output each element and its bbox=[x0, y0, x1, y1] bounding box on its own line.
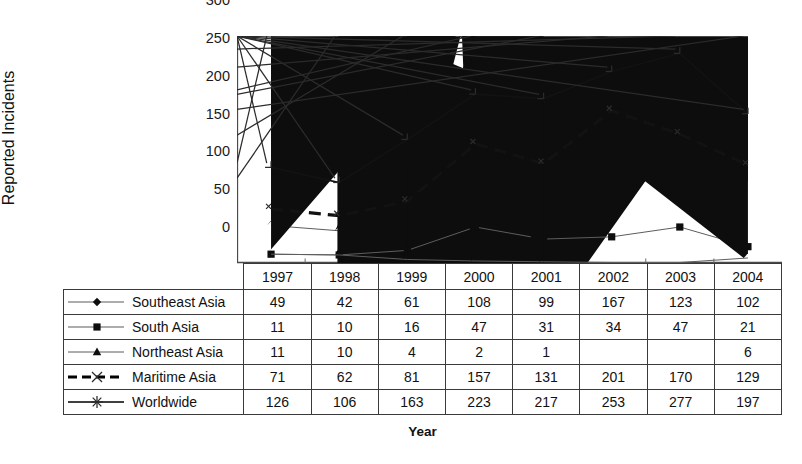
table-cell: 163 bbox=[378, 390, 445, 415]
table-header-year-2003: 2003 bbox=[647, 264, 714, 290]
table-cell: 167 bbox=[580, 290, 647, 315]
table-header-year-2001: 2001 bbox=[513, 264, 580, 290]
table-row: Southeast Asia49426110899167123102 bbox=[64, 290, 782, 315]
table-row: Worldwide126106163223217253277197 bbox=[64, 390, 782, 415]
table-row: Northeast Asia11104216 bbox=[64, 340, 782, 365]
table-cell: 71 bbox=[244, 365, 311, 390]
y-axis-title-text: Reported Incidents bbox=[0, 38, 18, 238]
table-cell: 197 bbox=[714, 390, 781, 415]
y-tick-300: 300 bbox=[188, 0, 230, 7]
table-cell: 2 bbox=[445, 340, 512, 365]
legend-cell-worldwide: Worldwide bbox=[64, 390, 244, 415]
table-cell: 10 bbox=[311, 340, 378, 365]
table-cell: 21 bbox=[714, 315, 781, 340]
asterisk-marker-icon bbox=[66, 392, 128, 412]
triangle-marker-icon bbox=[66, 342, 128, 362]
y-axis-tick-labels: 300 250 200 150 100 50 0 bbox=[182, 0, 230, 300]
legend-label: Northeast Asia bbox=[128, 344, 237, 360]
table-header-year-2004: 2004 bbox=[714, 264, 781, 290]
table-cell bbox=[647, 340, 714, 365]
table-cell: 6 bbox=[714, 340, 781, 365]
table-cell: 131 bbox=[513, 365, 580, 390]
table-header-blank bbox=[64, 264, 244, 290]
table-cell: 47 bbox=[647, 315, 714, 340]
table-header-year-2002: 2002 bbox=[580, 264, 647, 290]
chart-figure: Reported Incidents 300 250 200 150 100 5… bbox=[0, 0, 802, 464]
table-cell: 11 bbox=[244, 315, 311, 340]
table-cell: 217 bbox=[513, 390, 580, 415]
data-table: 19971998199920002001200220032004 Southea… bbox=[63, 263, 782, 415]
y-axis-title: Reported Incidents bbox=[0, 38, 18, 238]
table-cell: 277 bbox=[647, 390, 714, 415]
legend-cell-maritime-asia: Maritime Asia bbox=[64, 365, 244, 390]
table-cell: 81 bbox=[378, 365, 445, 390]
table-cell: 31 bbox=[513, 315, 580, 340]
square-marker-icon bbox=[66, 317, 128, 337]
table-header-year-1997: 1997 bbox=[244, 264, 311, 290]
legend-label: Worldwide bbox=[128, 394, 237, 410]
data-point-marker bbox=[237, 36, 271, 167]
y-tick-250: 250 bbox=[188, 31, 230, 45]
table-cell: 16 bbox=[378, 315, 445, 340]
table-cell: 253 bbox=[580, 390, 647, 415]
legend-cell-south-asia: South Asia bbox=[64, 315, 244, 340]
table-cell: 11 bbox=[244, 340, 311, 365]
table-cell: 129 bbox=[714, 365, 781, 390]
data-series-group bbox=[237, 36, 752, 268]
table-cell: 62 bbox=[311, 365, 378, 390]
table-cell bbox=[580, 340, 647, 365]
table-cell: 42 bbox=[311, 290, 378, 315]
table-cell: 49 bbox=[244, 290, 311, 315]
table-cell: 10 bbox=[311, 315, 378, 340]
table-header-row: 19971998199920002001200220032004 bbox=[64, 264, 782, 290]
table-cell: 1 bbox=[513, 340, 580, 365]
table-cell: 102 bbox=[714, 290, 781, 315]
table-cell: 123 bbox=[647, 290, 714, 315]
plot-svg bbox=[237, 36, 782, 268]
data-point-marker bbox=[608, 233, 615, 240]
y-tick-200: 200 bbox=[188, 69, 230, 83]
table-cell: 157 bbox=[445, 365, 512, 390]
diamond-marker-icon bbox=[66, 292, 128, 312]
data-point-marker bbox=[676, 223, 683, 230]
legend-label: Maritime Asia bbox=[128, 369, 237, 385]
table-cell: 99 bbox=[513, 290, 580, 315]
table-header-year-1999: 1999 bbox=[378, 264, 445, 290]
table-cell: 170 bbox=[647, 365, 714, 390]
data-point-marker bbox=[266, 204, 271, 209]
legend-cell-northeast-asia: Northeast Asia bbox=[64, 340, 244, 365]
y-tick-0: 0 bbox=[188, 220, 230, 234]
table-cell: 4 bbox=[378, 340, 445, 365]
table-header-year-1998: 1998 bbox=[311, 264, 378, 290]
table-cell: 108 bbox=[445, 290, 512, 315]
legend-label: South Asia bbox=[128, 319, 237, 335]
y-tick-100: 100 bbox=[188, 144, 230, 158]
legend-label: Southeast Asia bbox=[128, 294, 237, 310]
table-cell: 34 bbox=[580, 315, 647, 340]
table-cell: 201 bbox=[580, 365, 647, 390]
table-cell: 106 bbox=[311, 390, 378, 415]
table-cell: 61 bbox=[378, 290, 445, 315]
y-tick-50: 50 bbox=[188, 182, 230, 196]
table-row: South Asia1110164731344721 bbox=[64, 315, 782, 340]
plot-area bbox=[237, 36, 782, 263]
x-axis-title: Year bbox=[63, 424, 782, 439]
table-cell: 47 bbox=[445, 315, 512, 340]
x-marker-icon bbox=[66, 367, 128, 387]
table-cell: 223 bbox=[445, 390, 512, 415]
table-row: Maritime Asia716281157131201170129 bbox=[64, 365, 782, 390]
table-cell: 126 bbox=[244, 390, 311, 415]
table-header-year-2000: 2000 bbox=[445, 264, 512, 290]
y-tick-150: 150 bbox=[188, 107, 230, 121]
legend-cell-southeast-asia: Southeast Asia bbox=[64, 290, 244, 315]
